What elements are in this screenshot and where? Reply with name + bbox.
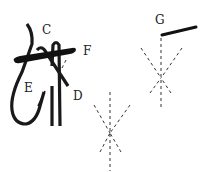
diagram-canvas: C F E D G bbox=[0, 0, 205, 172]
label-e: E bbox=[24, 81, 33, 95]
label-c: C bbox=[42, 23, 51, 37]
label-g: G bbox=[155, 13, 165, 27]
label-f: F bbox=[83, 44, 91, 58]
dashed-guide-f bbox=[61, 60, 66, 70]
hook-figure bbox=[12, 24, 68, 126]
label-d: D bbox=[73, 89, 83, 103]
dashed-star-lower bbox=[94, 92, 130, 171]
knot-diagram: C F E D G bbox=[0, 0, 205, 172]
segment-g bbox=[162, 27, 196, 35]
dashed-star-upper bbox=[141, 38, 182, 110]
